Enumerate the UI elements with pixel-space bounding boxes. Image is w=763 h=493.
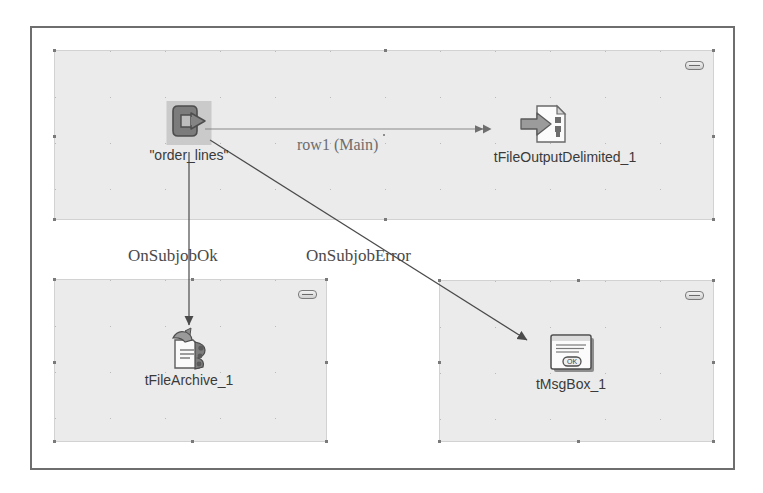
input-arrow-icon	[165, 101, 213, 145]
selection-highlight	[167, 101, 212, 145]
subjob-bottom-right-collapse-button[interactable]	[685, 291, 704, 300]
component-tfilearchive[interactable]: tFileArchive_1	[141, 326, 237, 388]
component-tfileoutputdelimited[interactable]: tFileOutputDelimited_1	[485, 103, 645, 165]
subjob-top-collapse-button[interactable]	[685, 61, 704, 70]
component-order-lines[interactable]: "order_lines"	[141, 101, 237, 163]
component-tmsgbox[interactable]: OK tMsgBox_1	[516, 330, 626, 392]
file-output-delimited-icon	[519, 103, 567, 147]
connection-onsubjobok-label: OnSubjobOk	[128, 246, 218, 266]
subjob-bottom-left-collapse-button[interactable]	[298, 290, 317, 299]
connection-onsubjoberror-label: OnSubjobError	[306, 246, 411, 266]
svg-text:OK: OK	[567, 358, 577, 365]
screenshot-root: row1 (Main) OnSubjobOk OnSubjobError "or…	[0, 0, 763, 493]
component-order-lines-label: "order_lines"	[141, 147, 237, 163]
component-tfileoutputdelimited-label: tFileOutputDelimited_1	[485, 149, 645, 165]
component-tfilearchive-label: tFileArchive_1	[141, 372, 237, 388]
message-box-icon: OK	[543, 330, 599, 374]
component-tmsgbox-label: tMsgBox_1	[516, 376, 626, 392]
file-archive-icon	[165, 326, 213, 370]
connection-row1-label: row1 (Main)	[297, 136, 378, 154]
